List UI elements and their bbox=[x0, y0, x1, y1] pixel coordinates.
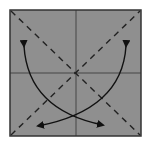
origami-diagram bbox=[0, 0, 145, 149]
